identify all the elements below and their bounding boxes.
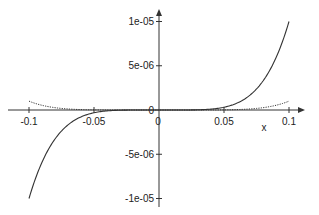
x-tick-label: -0.05 bbox=[83, 116, 106, 127]
y-tick-label: 5e-06 bbox=[128, 60, 154, 71]
x-axis-label: x bbox=[262, 122, 267, 133]
y-axis bbox=[156, 9, 162, 207]
plot-area: -0.1-0.0500.050.1 1e-055e-060-5e-06-1e-0… bbox=[0, 0, 319, 215]
x-tick-label: -0.1 bbox=[20, 116, 38, 127]
y-tick-label: 1e-05 bbox=[128, 16, 154, 27]
y-tick-label: -5e-06 bbox=[125, 149, 154, 160]
y-tick-label: -1e-05 bbox=[125, 193, 154, 204]
x-axis-arrow-icon bbox=[298, 107, 305, 113]
x-tick-label: 0.05 bbox=[214, 116, 234, 127]
x-tick-label: 0.1 bbox=[282, 116, 296, 127]
x-tick-label: 0 bbox=[155, 116, 161, 127]
y-axis-arrow-icon bbox=[156, 9, 162, 16]
